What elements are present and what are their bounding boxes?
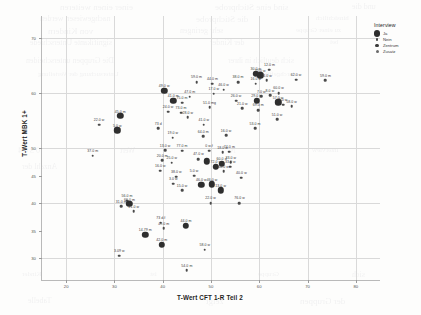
data-point[interactable]: [260, 95, 263, 98]
point-label: 76.0 w: [234, 196, 245, 200]
data-point[interactable]: [142, 232, 148, 238]
data-point[interactable]: [295, 79, 298, 82]
data-point[interactable]: [91, 154, 94, 157]
data-point[interactable]: [172, 136, 175, 139]
x-tick-label: 80: [353, 284, 358, 289]
data-point[interactable]: [282, 103, 285, 106]
point-label: 33.0 w: [225, 156, 236, 160]
data-point[interactable]: [195, 81, 198, 84]
data-point[interactable]: [186, 269, 189, 272]
point-label: 58.0 w: [286, 100, 297, 104]
point-label: 19.0 w: [168, 131, 179, 135]
point-label: 59.0 m: [191, 75, 202, 79]
data-point[interactable]: [202, 124, 205, 127]
point-label: 58.0 w: [199, 243, 210, 247]
x-tick-label: 50: [209, 284, 214, 289]
data-point[interactable]: [164, 149, 167, 152]
data-point[interactable]: [181, 149, 184, 152]
data-point[interactable]: [277, 92, 280, 95]
data-point[interactable]: [235, 99, 238, 102]
legend-marker-icon: [375, 44, 379, 48]
data-point[interactable]: [213, 92, 216, 95]
point-label: 7.0 w: [257, 90, 266, 94]
y-gridline: [42, 93, 380, 94]
data-point[interactable]: [132, 210, 135, 213]
data-point[interactable]: [324, 79, 327, 82]
data-point[interactable]: [240, 176, 243, 179]
data-point[interactable]: [209, 202, 212, 205]
data-point[interactable]: [172, 182, 175, 185]
data-point[interactable]: [120, 205, 123, 208]
data-point[interactable]: [290, 105, 293, 108]
data-point[interactable]: [217, 187, 223, 193]
data-point[interactable]: [98, 124, 101, 127]
legend-label: Zusatz: [383, 49, 396, 54]
data-point[interactable]: [225, 134, 228, 137]
data-point[interactable]: [181, 102, 184, 105]
data-point[interactable]: [159, 242, 165, 248]
data-point[interactable]: [208, 106, 211, 109]
data-point[interactable]: [209, 181, 215, 187]
data-point[interactable]: [203, 248, 206, 251]
point-label: 16.0 w: [155, 164, 166, 168]
legend-marker-icon: [376, 50, 379, 53]
data-point[interactable]: [228, 151, 231, 154]
x-tick: [211, 280, 212, 283]
data-point[interactable]: [241, 107, 244, 110]
data-point[interactable]: [161, 159, 164, 162]
point-label: 59.0 m: [320, 74, 331, 78]
data-point[interactable]: [171, 162, 174, 165]
data-point[interactable]: [208, 149, 211, 152]
data-point[interactable]: [222, 170, 225, 173]
data-point[interactable]: [257, 109, 260, 112]
point-label: 0 w.f: [205, 144, 212, 148]
data-point[interactable]: [238, 202, 241, 205]
data-point[interactable]: [159, 169, 162, 172]
point-label: 46.0 w: [218, 83, 229, 87]
data-point[interactable]: [181, 189, 184, 192]
data-point[interactable]: [213, 163, 219, 169]
y-tick: [39, 231, 42, 232]
bleed-text: Kinder: [22, 270, 41, 278]
data-point[interactable]: [117, 113, 123, 119]
data-point[interactable]: [188, 96, 191, 99]
point-label: 24.0 w: [163, 105, 174, 109]
data-point[interactable]: [221, 151, 224, 154]
data-point[interactable]: [157, 127, 160, 130]
data-point[interactable]: [187, 116, 190, 119]
legend-item-zusatz[interactable]: Zusatz: [374, 49, 398, 55]
data-point[interactable]: [183, 222, 189, 228]
point-label: 64.0 m: [198, 130, 209, 134]
data-point[interactable]: [237, 81, 240, 84]
x-tick: [308, 280, 309, 283]
point-label: 26.0 w: [231, 94, 242, 98]
y-gridline: [42, 38, 380, 39]
data-point[interactable]: [229, 165, 232, 168]
data-point[interactable]: [197, 158, 200, 161]
data-point[interactable]: [268, 69, 271, 72]
data-point[interactable]: [211, 82, 214, 85]
data-point[interactable]: [162, 227, 165, 230]
data-point[interactable]: [114, 127, 120, 133]
point-label: 22.0 w: [94, 118, 105, 122]
data-point[interactable]: [203, 158, 209, 164]
data-point[interactable]: [118, 255, 121, 258]
point-label: 73 d.f: [156, 216, 165, 220]
point-label: 60.0 w: [273, 86, 284, 90]
point-label: 16.0 w: [221, 129, 232, 133]
y-gridline: [42, 258, 380, 259]
data-point[interactable]: [222, 88, 225, 91]
y-tick: [39, 38, 42, 39]
data-point[interactable]: [269, 94, 272, 97]
data-point[interactable]: [202, 135, 205, 138]
data-point[interactable]: [193, 174, 196, 177]
point-label: 25.0 w: [167, 156, 178, 160]
legend-marker-icon: [374, 30, 380, 36]
data-point[interactable]: [276, 118, 279, 121]
data-point[interactable]: [255, 82, 258, 85]
data-point[interactable]: [254, 127, 257, 130]
data-point[interactable]: [198, 182, 204, 188]
data-point[interactable]: [265, 79, 268, 82]
data-point[interactable]: [167, 110, 170, 113]
x-tick-label: 20: [64, 284, 69, 289]
